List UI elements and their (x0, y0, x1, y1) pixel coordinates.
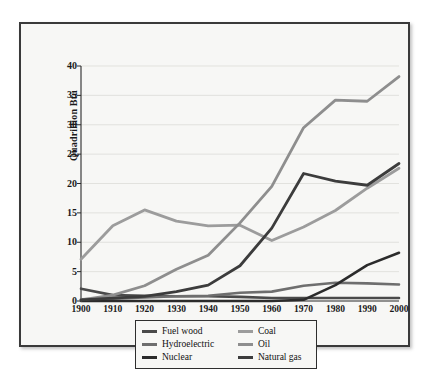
x-tick-label: 1970 (287, 304, 321, 314)
legend-item-hydroelectric[interactable]: Hydroelectric (142, 339, 238, 350)
legend-row: NuclearNatural gas (142, 351, 310, 364)
y-tick-label: 30 (55, 120, 77, 130)
series-line-natural-gas (81, 164, 399, 300)
legend-label: Fuel wood (162, 326, 202, 337)
x-axis-tick-labels: 1900191019201930194019501960197019801990… (81, 304, 399, 318)
series-layer (81, 66, 399, 301)
y-tick-label: 5 (55, 267, 77, 277)
legend-swatch-icon (238, 356, 253, 359)
legend-item-nuclear[interactable]: Nuclear (142, 352, 238, 363)
x-tick-label: 1910 (96, 304, 130, 314)
x-tick-label: 1940 (191, 304, 225, 314)
legend-label: Natural gas (258, 352, 302, 363)
legend-swatch-icon (238, 330, 253, 333)
x-tick-label: 1990 (350, 304, 384, 314)
chart-plate: Quadrillion Btu 0510152025303540 1900191… (19, 22, 410, 347)
plot-area (81, 66, 399, 301)
legend-swatch-icon (142, 356, 157, 359)
legend-swatch-icon (142, 330, 157, 333)
y-axis-tick-labels: 0510152025303540 (51, 66, 77, 301)
legend-item-coal[interactable]: Coal (238, 326, 310, 337)
legend-label: Hydroelectric (162, 339, 214, 350)
y-tick-label: 40 (55, 61, 77, 71)
legend-swatch-icon (142, 343, 157, 346)
legend-label: Oil (258, 339, 270, 350)
y-tick-label: 25 (55, 149, 77, 159)
legend-row: Fuel woodCoal (142, 325, 310, 338)
x-tick-label: 2000 (382, 304, 416, 314)
legend-label: Coal (258, 326, 276, 337)
x-tick-label: 1900 (64, 304, 98, 314)
y-tick-label: 15 (55, 208, 77, 218)
x-tick-label: 1980 (318, 304, 352, 314)
x-tick-label: 1920 (128, 304, 162, 314)
y-tick-label: 20 (55, 179, 77, 189)
y-tick-label: 35 (55, 90, 77, 100)
legend-label: Nuclear (162, 352, 192, 363)
y-tick-label: 10 (55, 237, 77, 247)
legend-item-natural-gas[interactable]: Natural gas (238, 352, 310, 363)
legend-swatch-icon (238, 343, 253, 346)
legend-row: HydroelectricOil (142, 338, 310, 351)
legend-item-fuel-wood[interactable]: Fuel wood (142, 326, 238, 337)
legend-item-oil[interactable]: Oil (238, 339, 310, 350)
figure-root: Quadrillion Btu 0510152025303540 1900191… (0, 0, 433, 371)
chart-legend: Fuel woodCoalHydroelectricOilNuclearNatu… (135, 320, 317, 369)
x-tick-label: 1930 (159, 304, 193, 314)
x-tick-label: 1950 (223, 304, 257, 314)
x-tick-label: 1960 (255, 304, 289, 314)
